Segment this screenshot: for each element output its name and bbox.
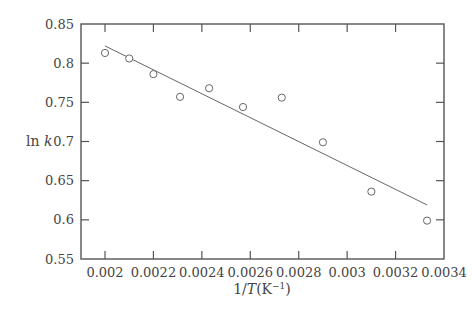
y-tick-label: 0.8	[53, 56, 74, 71]
data-point	[101, 49, 108, 56]
data-point	[126, 55, 133, 62]
y-tick-label: 0.85	[45, 17, 74, 32]
plot-border	[81, 24, 444, 259]
data-point	[319, 139, 326, 146]
x-tick-label: 0.0032	[373, 265, 419, 280]
data-point	[206, 85, 213, 92]
plot-frame	[81, 24, 444, 259]
data-point	[150, 71, 157, 78]
data-point	[239, 103, 246, 110]
x-tick-label: 0.0024	[179, 265, 225, 280]
data-points	[101, 49, 430, 224]
x-tick-label: 0.003	[329, 265, 366, 280]
x-axis-ticks: 0.0020.00220.00240.00260.00280.0030.0032…	[86, 24, 466, 280]
data-point	[368, 188, 375, 195]
y-tick-label: 0.6	[53, 212, 74, 227]
data-point	[423, 217, 430, 224]
x-tick-label: 0.0034	[421, 265, 467, 280]
x-axis-label: 1/T(K−1)	[233, 281, 291, 297]
regression-line	[105, 46, 427, 205]
x-tick-label: 0.0026	[228, 265, 274, 280]
y-tick-label: 0.55	[45, 252, 74, 267]
x-tick-label: 0.0022	[131, 265, 177, 280]
y-tick-label: 0.75	[45, 95, 74, 110]
y-tick-label: 0.65	[45, 173, 74, 188]
scatter-chart: 0.0020.00220.00240.00260.00280.0030.0032…	[0, 0, 473, 309]
data-point	[176, 93, 183, 100]
fit-line	[105, 46, 427, 205]
x-tick-label: 0.0028	[276, 265, 322, 280]
x-tick-label: 0.002	[86, 265, 123, 280]
y-tick-label: 0.7	[53, 134, 74, 149]
y-axis-label: ln k	[26, 133, 52, 149]
data-point	[278, 94, 285, 101]
